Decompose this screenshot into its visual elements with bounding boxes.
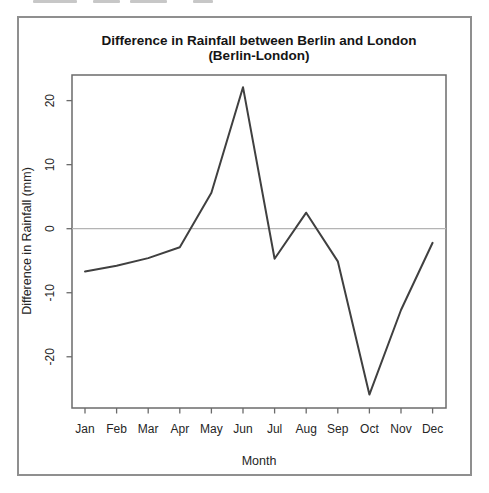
x-tick-label: Mar [138,422,159,436]
x-tick-label: Aug [296,422,317,436]
x-tick-label: Nov [390,422,411,436]
x-tick-label: Jul [267,422,282,436]
rainfall-difference-line [85,87,433,394]
y-axis-title: Difference in Rainfall (mm) [20,167,34,315]
y-tick-label: -20 [43,348,57,366]
x-tick-label: Apr [170,422,189,436]
x-axis-title: Month [242,454,277,468]
y-tick-label: 10 [43,158,57,172]
x-tick-label: Jan [75,422,94,436]
x-tick-label: Sep [327,422,349,436]
x-tick-label: May [200,422,223,436]
screenshot-root: Difference in Rainfall between Berlin an… [0,0,489,493]
x-tick-label: Feb [106,422,127,436]
plot-area: JanFebMarAprMayJunJulAugSepOctNovDec-20-… [0,0,489,493]
x-tick-label: Oct [360,422,379,436]
y-tick-label: 0 [43,225,57,232]
y-tick-label: 20 [43,94,57,108]
x-tick-label: Jun [233,422,252,436]
x-tick-label: Dec [422,422,443,436]
plot-box [72,75,446,408]
y-tick-label: -10 [43,284,57,302]
